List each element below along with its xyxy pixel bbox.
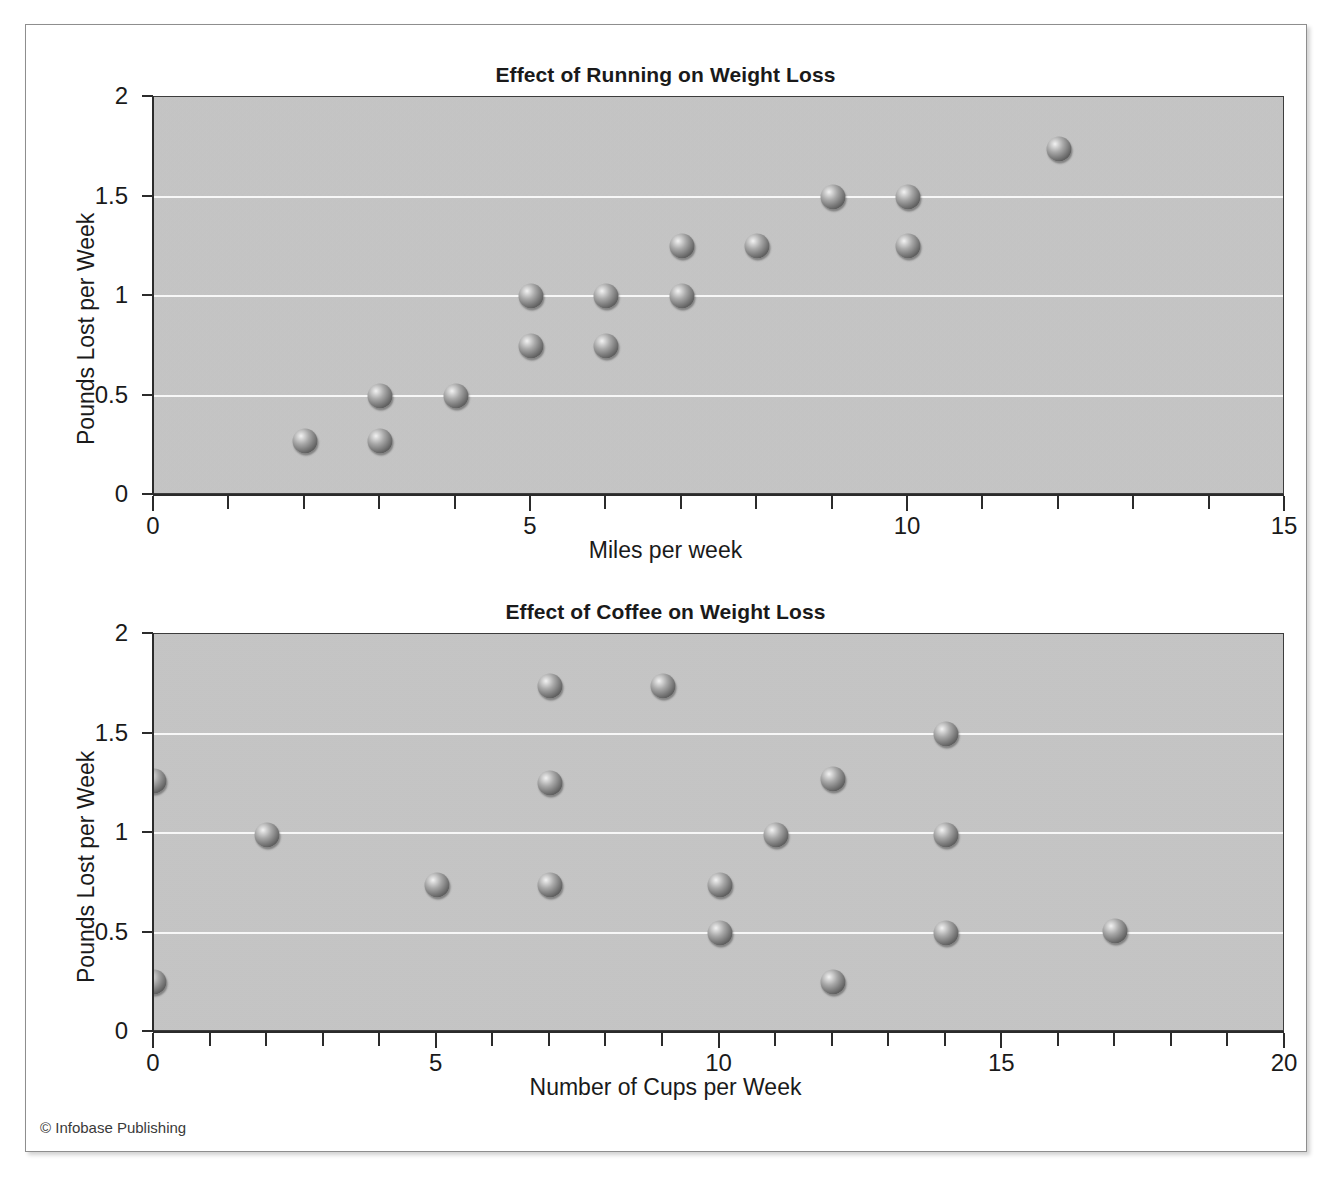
x-tick-label: 15 [988,1049,1015,1077]
data-point [820,767,845,792]
x-tick-mark-major [152,496,154,511]
y-tick-label: 2 [43,82,128,110]
x-axis-line [153,494,1284,496]
x-tick-mark-minor [604,496,606,509]
x-tick-mark-major [529,496,531,511]
x-tick-mark-minor [680,496,682,509]
data-point [368,383,393,408]
data-point [292,429,317,454]
x-tick-mark-minor [831,1033,833,1046]
x-tick-mark-minor [1170,1033,1172,1046]
x-tick-label: 0 [146,1049,159,1077]
x-tick-mark-minor [944,1033,946,1046]
chart-running-xlabel: Miles per week [26,537,1305,564]
x-tick-label: 15 [1271,512,1298,540]
gridline [154,832,1283,834]
data-point [933,920,958,945]
x-tick-mark-major [435,1033,437,1048]
y-tick-mark [142,95,153,97]
x-tick-mark-major [1000,1033,1002,1048]
gridline [154,295,1283,297]
y-tick-mark [142,831,153,833]
data-point [820,184,845,209]
y-tick-mark [142,931,153,933]
x-tick-mark-minor [831,496,833,509]
x-tick-label: 0 [146,512,159,540]
x-tick-label: 20 [1271,1049,1298,1077]
y-tick-mark [142,394,153,396]
data-point [820,970,845,995]
chart-running-plot-area [153,96,1284,494]
x-tick-label: 5 [429,1049,442,1077]
y-tick-label: 0 [43,1017,128,1045]
x-tick-mark-major [152,1033,154,1048]
x-tick-mark-major [1283,496,1285,511]
chart-coffee-xlabel: Number of Cups per Week [26,1074,1305,1101]
chart-coffee: Effect of Coffee on Weight Loss 00.511.5… [26,565,1305,1125]
chart-running: Effect of Running on Weight Loss 00.511.… [26,25,1305,565]
y-tick-label: 0 [43,480,128,508]
y-tick-label: 1.5 [43,719,128,747]
x-tick-mark-minor [303,496,305,509]
data-point [745,234,770,259]
data-point [424,872,449,897]
data-point [1046,136,1071,161]
data-point [896,184,921,209]
data-point [153,769,167,794]
chart-coffee-plot-area [153,633,1284,1031]
gridline [154,196,1283,198]
data-point [707,920,732,945]
y-tick-mark [142,294,153,296]
x-tick-label: 5 [523,512,536,540]
y-tick-mark [142,493,153,495]
data-point [368,429,393,454]
y-tick-mark [142,732,153,734]
data-point [896,234,921,259]
chart-running-ylabel: Pounds Lost per Week [73,213,100,445]
data-point [933,721,958,746]
data-point [594,284,619,309]
x-tick-mark-minor [774,1033,776,1046]
copyright-notice: © Infobase Publishing [40,1119,186,1136]
x-tick-mark-minor [1057,1033,1059,1046]
data-point [537,673,562,698]
data-point [594,333,619,358]
chart-coffee-title: Effect of Coffee on Weight Loss [26,600,1305,624]
x-tick-mark-minor [209,1033,211,1046]
x-tick-mark-major [906,496,908,511]
x-tick-mark-minor [755,496,757,509]
data-point [650,673,675,698]
data-point [669,284,694,309]
data-point [255,822,280,847]
y-tick-mark [142,1030,153,1032]
x-tick-mark-minor [1132,496,1134,509]
x-tick-mark-minor [378,1033,380,1046]
x-tick-mark-minor [378,496,380,509]
y-tick-mark [142,195,153,197]
data-point [519,284,544,309]
chart-running-title: Effect of Running on Weight Loss [26,63,1305,87]
x-tick-mark-minor [661,1033,663,1046]
x-tick-mark-major [1283,1033,1285,1048]
y-tick-label: 2 [43,619,128,647]
chart-coffee-ylabel: Pounds Lost per Week [73,751,100,983]
x-tick-mark-minor [887,1033,889,1046]
x-tick-mark-minor [1208,496,1210,509]
y-tick-mark [142,632,153,634]
data-point [933,822,958,847]
data-point [153,970,167,995]
x-tick-mark-minor [548,1033,550,1046]
x-tick-label: 10 [705,1049,732,1077]
x-tick-mark-minor [265,1033,267,1046]
data-point [1103,918,1128,943]
data-point [519,333,544,358]
x-tick-mark-minor [1057,496,1059,509]
y-tick-label: 1.5 [43,182,128,210]
x-tick-mark-minor [322,1033,324,1046]
x-tick-mark-minor [454,496,456,509]
data-point [537,872,562,897]
x-tick-mark-minor [604,1033,606,1046]
data-point [707,872,732,897]
gridline [154,733,1283,735]
data-point [764,822,789,847]
